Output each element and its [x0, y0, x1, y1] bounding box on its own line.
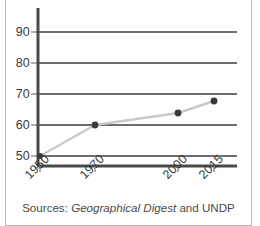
data-point-1970: [92, 122, 99, 129]
y-tick-label-slot: 90: [4, 32, 30, 33]
x-tick-label-slot: 1970: [77, 172, 78, 173]
y-tick-label-90: 90: [16, 25, 30, 39]
y-tick-label-slot: 70: [4, 94, 30, 95]
caption-source-plain: UNDP: [202, 201, 235, 214]
gridlines: [38, 32, 237, 156]
y-tick-label-slot: 80: [4, 63, 30, 64]
data-markers: [37, 98, 218, 159]
y-tick-label-60: 60: [16, 118, 30, 132]
x-tick-label-slot: 2015: [196, 172, 197, 173]
chart-figure: 90 80 70 60 50 1950 1970 2000 2015 Sourc…: [0, 0, 260, 226]
data-line: [40, 101, 214, 156]
x-tick-label-slot: 1950: [22, 172, 23, 173]
data-point-2015: [211, 98, 218, 105]
data-point-2000: [175, 110, 182, 117]
y-tick-label-slot: 50: [4, 156, 30, 157]
y-tick-label-80: 80: [16, 56, 30, 70]
y-tick-label-50: 50: [16, 149, 30, 163]
caption-conjunction: and: [179, 201, 198, 214]
caption-source-italic: Geographical Digest: [71, 201, 176, 214]
y-tick-label-70: 70: [16, 87, 30, 101]
line-chart-plot: [0, 0, 260, 226]
y-tick-label-slot: 60: [4, 125, 30, 126]
source-caption: Sources: Geographical Digest and UNDP: [5, 201, 252, 214]
x-tick-label-slot: 2000: [160, 172, 161, 173]
caption-prefix: Sources:: [22, 201, 68, 214]
